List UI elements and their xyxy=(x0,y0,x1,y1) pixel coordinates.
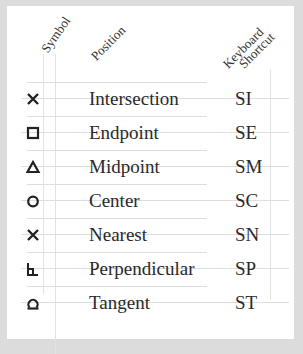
tangent-icon xyxy=(25,295,41,311)
table-row: Center SC xyxy=(7,185,294,217)
position-label: Perpendicular xyxy=(89,258,195,280)
table-row: Perpendicular SP xyxy=(7,253,294,285)
triangle-icon xyxy=(25,159,41,175)
header-symbol: Symbol xyxy=(38,14,74,56)
position-label: Tangent xyxy=(89,292,150,314)
table-row: Endpoint SE xyxy=(7,117,294,149)
table-row: Midpoint SM xyxy=(7,151,294,183)
table-row: Nearest SN xyxy=(7,219,294,251)
snap-shortcuts-table: Symbol Position Keyboard Shortcut Inters… xyxy=(7,6,294,339)
perpendicular-icon xyxy=(25,261,41,277)
shortcut-label: ST xyxy=(235,292,257,314)
shortcut-label: SI xyxy=(235,88,252,110)
position-label: Center xyxy=(89,190,140,212)
shortcut-label: SM xyxy=(235,156,262,178)
position-label: Nearest xyxy=(89,224,147,246)
shortcut-label: SN xyxy=(235,224,259,246)
shortcut-label: SP xyxy=(235,258,256,280)
shortcut-label: SE xyxy=(235,122,257,144)
position-label: Endpoint xyxy=(89,122,159,144)
shortcut-label: SC xyxy=(235,190,258,212)
position-label: Intersection xyxy=(89,88,179,110)
position-label: Midpoint xyxy=(89,156,160,178)
square-icon xyxy=(25,125,41,141)
circle-icon xyxy=(25,193,41,209)
table-row: Intersection SI xyxy=(7,83,294,115)
header-position: Position xyxy=(88,23,129,64)
cross-icon xyxy=(25,227,41,243)
table-row: Tangent ST xyxy=(7,287,294,319)
cross-icon xyxy=(25,91,41,107)
